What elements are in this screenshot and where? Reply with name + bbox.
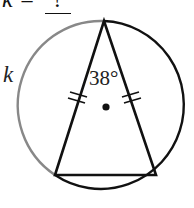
arc-k-highlight bbox=[18, 21, 104, 175]
circle-arc-main bbox=[55, 21, 184, 189]
diagram-canvas bbox=[0, 0, 194, 208]
circle-center-dot bbox=[102, 103, 109, 110]
right-side-tick-marks bbox=[122, 92, 141, 103]
left-side-tick-marks bbox=[68, 92, 87, 103]
arc-k-label: k bbox=[3, 62, 13, 88]
geometry-figure: k = ? k 38° bbox=[0, 0, 194, 208]
apex-angle-label: 38° bbox=[89, 66, 118, 91]
